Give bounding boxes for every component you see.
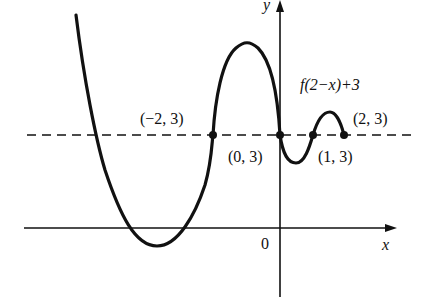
point-neg2-3	[209, 131, 217, 139]
x-axis-label: x	[382, 237, 389, 253]
point-label-0-3: (0, 3)	[228, 149, 263, 165]
origin-label: 0	[261, 236, 269, 252]
point-2-3	[340, 131, 348, 139]
point-label-1-3: (1, 3)	[318, 149, 353, 165]
point-label-neg2-3: (−2, 3)	[140, 111, 184, 127]
point-1-3	[309, 131, 317, 139]
point-0-3	[276, 131, 284, 139]
x-axis-arrow-icon	[385, 224, 397, 232]
y-axis-arrow-icon	[276, 0, 284, 12]
graph-canvas	[0, 0, 436, 299]
function-curve	[76, 15, 344, 246]
function-label: f(2−x)+3	[300, 77, 360, 93]
y-axis-label: y	[263, 0, 270, 13]
point-label-2-3: (2, 3)	[353, 111, 388, 127]
